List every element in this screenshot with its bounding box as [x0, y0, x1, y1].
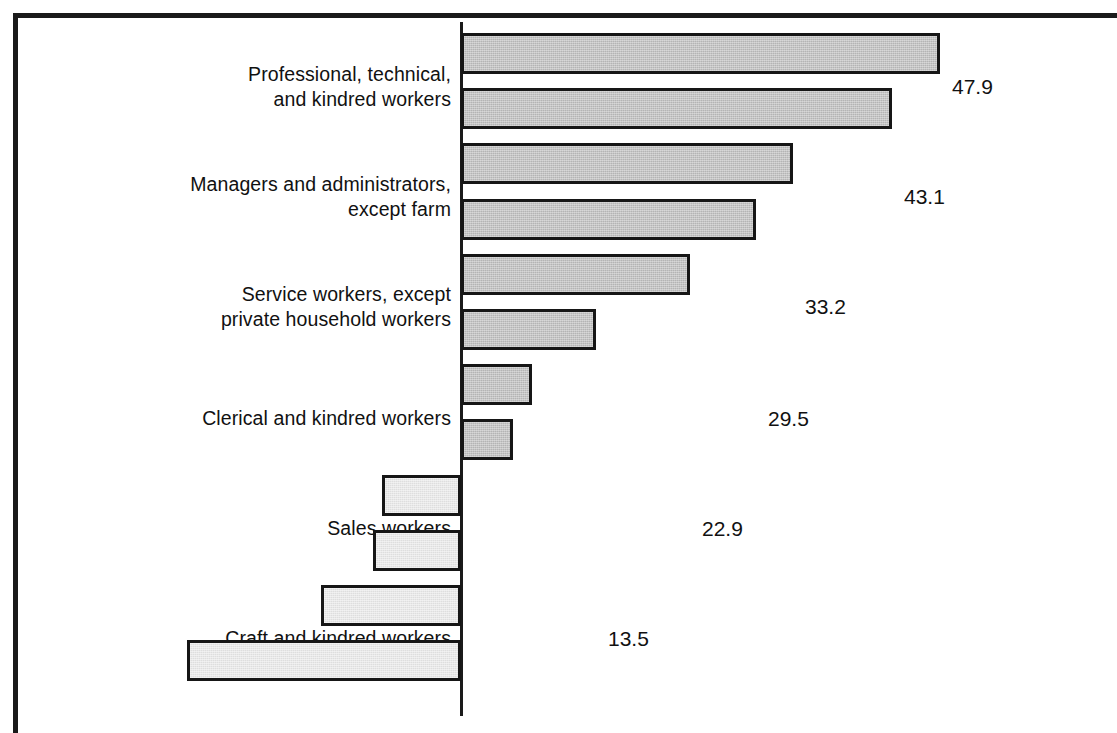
bar-positive [461, 419, 513, 460]
bar-negative [321, 585, 461, 626]
bar-row: Sales workers22.9 [0, 254, 1117, 295]
bar-negative [382, 475, 461, 516]
bar-positive [461, 309, 596, 350]
bar-positive [461, 199, 756, 240]
bar-positive [461, 364, 532, 405]
bar-negative [187, 640, 461, 681]
plot-area: Professional, technical, and kindred wor… [0, 0, 1117, 733]
bar-row: Managers and administrators, except farm… [0, 88, 1117, 129]
bar-row: Transport equipment operators5.2 [0, 419, 1117, 460]
bar-row: Farmers and farm managers-14.0 [0, 585, 1117, 626]
bar-positive [461, 143, 793, 184]
bar-row: Clerical and kindred workers29.5 [0, 199, 1117, 240]
bar-row: Farm laborers and supervisors-7.9 [0, 475, 1117, 516]
chart-figure: Professional, technical, and kindred wor… [0, 0, 1117, 733]
bar-positive [461, 33, 940, 74]
bar-row: Professional, technical, and kindred wor… [0, 33, 1117, 74]
bar-row: Private household workers-27.4 [0, 640, 1117, 681]
bar-negative [373, 530, 461, 571]
bar-positive [461, 88, 892, 129]
bar-row: Craft and kindred workers13.5 [0, 309, 1117, 350]
bar-row: Service workers, except private househol… [0, 143, 1117, 184]
bar-positive [461, 254, 690, 295]
bar-row: Laborers, except farm7.1 [0, 364, 1117, 405]
bar-row: Operators, except transport-8.8 [0, 530, 1117, 571]
